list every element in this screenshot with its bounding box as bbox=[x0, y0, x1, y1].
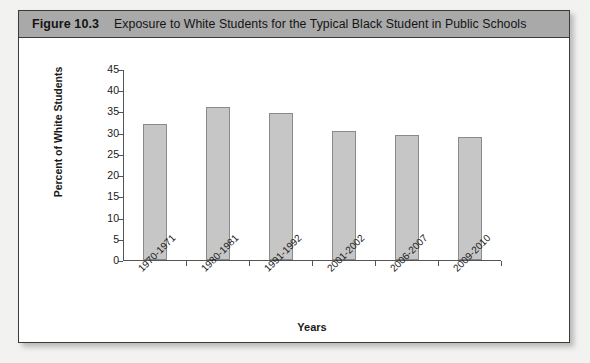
figure-title: Exposure to White Students for the Typic… bbox=[114, 17, 526, 31]
y-tick-label: 35 bbox=[107, 105, 119, 117]
y-tick-label: 15 bbox=[107, 190, 119, 202]
chart-axes: 051015202530354045 bbox=[123, 70, 501, 261]
figure-card: Figure 10.3 Exposure to White Students f… bbox=[18, 10, 570, 343]
y-tick-label: 20 bbox=[107, 169, 119, 181]
figure-header: Figure 10.3 Exposure to White Students f… bbox=[19, 11, 569, 38]
figure-number: Figure 10.3 bbox=[32, 17, 99, 31]
x-tick-mark bbox=[186, 261, 187, 266]
chart-plot-region: Percent of White Students 05101520253035… bbox=[19, 38, 569, 342]
x-tick-mark bbox=[312, 261, 313, 266]
y-tick-label: 0 bbox=[113, 254, 119, 266]
x-tick-mark bbox=[501, 261, 502, 266]
x-tick-mark bbox=[375, 261, 376, 266]
y-tick-label: 10 bbox=[107, 212, 119, 224]
bar bbox=[206, 107, 230, 260]
x-tick-mark bbox=[438, 261, 439, 266]
y-tick-label: 45 bbox=[107, 63, 119, 75]
x-tick-mark bbox=[249, 261, 250, 266]
x-axis-label: Years bbox=[123, 321, 501, 333]
y-axis-label: Percent of White Students bbox=[52, 57, 64, 207]
y-axis-line bbox=[123, 70, 124, 261]
y-tick-label: 25 bbox=[107, 148, 119, 160]
y-tick-label: 30 bbox=[107, 127, 119, 139]
y-tick-label: 40 bbox=[107, 84, 119, 96]
y-tick-label: 5 bbox=[113, 233, 119, 245]
